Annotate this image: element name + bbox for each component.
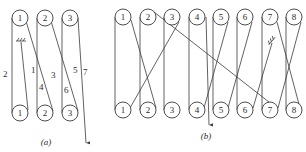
roller-threading-figure: 1 2 3 1 2 3 1 2 3 4 5 6 7 (a)	[0, 0, 306, 152]
bottom-roller-6: 6	[237, 102, 253, 118]
bottom-roller-3: 3	[164, 102, 180, 118]
bottom-roller-5: 5	[213, 102, 229, 118]
top-roller-2: 2	[37, 10, 53, 26]
diagram-b: 1 2 3 4 5 6 7 8 1 2 3 4 5 6 7 8 (b)	[115, 9, 302, 141]
segment-label-6: 6	[64, 85, 69, 95]
svg-text:4: 4	[195, 105, 200, 115]
segment-label-7: 7	[83, 67, 88, 77]
strand-anchor-bottom6	[253, 43, 272, 108]
bottom-roller-2: 2	[37, 105, 53, 121]
segment-label-2: 2	[3, 69, 8, 79]
top-roller-3: 3	[62, 10, 78, 26]
svg-text:1: 1	[121, 105, 126, 115]
svg-text:8: 8	[292, 105, 297, 115]
svg-text:7: 7	[268, 12, 273, 22]
svg-text:2: 2	[43, 108, 48, 118]
svg-text:1: 1	[121, 12, 126, 22]
top-roller-7: 7	[262, 9, 278, 25]
segment-label-4: 4	[39, 82, 44, 92]
strand-1	[21, 42, 28, 110]
segment-label-3: 3	[51, 70, 56, 80]
top-roller-2: 2	[140, 9, 156, 25]
svg-text:5: 5	[219, 12, 224, 22]
bottom-roller-3: 3	[62, 105, 78, 121]
top-roller-1: 1	[12, 10, 28, 26]
strand-top7-bottom8	[277, 22, 300, 108]
strand-7-exit-arrow	[78, 18, 86, 143]
svg-text:1: 1	[18, 108, 23, 118]
segment-label-1: 1	[31, 65, 36, 75]
caption-a: (a)	[41, 137, 52, 147]
top-roller-1: 1	[115, 9, 131, 25]
caption-b: (b)	[201, 131, 212, 141]
top-roller-6: 6	[237, 9, 253, 25]
bottom-roller-8: 8	[286, 102, 302, 118]
bottom-roller-1: 1	[115, 102, 131, 118]
bottom-roller-1: 1	[12, 105, 28, 121]
top-roller-3: 3	[164, 9, 180, 25]
svg-text:6: 6	[243, 105, 248, 115]
segment-label-5: 5	[73, 65, 78, 75]
svg-text:3: 3	[68, 13, 73, 23]
bottom-roller-4: 4	[189, 102, 205, 118]
top-roller-8: 8	[286, 9, 302, 25]
svg-text:2: 2	[146, 105, 151, 115]
strand-top3-bottom1	[130, 22, 179, 108]
diagram-a: 1 2 3 1 2 3 1 2 3 4 5 6 7 (a)	[3, 10, 88, 147]
svg-text:2: 2	[43, 13, 48, 23]
anchor-icon	[16, 38, 26, 41]
top-roller-5: 5	[213, 9, 229, 25]
exit-arrow	[206, 17, 209, 125]
svg-text:8: 8	[292, 12, 297, 22]
strand-top8-bottom7	[278, 22, 301, 108]
svg-text:6: 6	[243, 12, 248, 22]
svg-text:2: 2	[146, 12, 151, 22]
strand-top2-bottom7	[154, 12, 274, 106]
top-roller-4: 4	[189, 9, 205, 25]
svg-text:7: 7	[268, 105, 273, 115]
svg-text:3: 3	[170, 105, 175, 115]
anchor-icon	[266, 35, 275, 45]
svg-text:3: 3	[170, 12, 175, 22]
strand-top1-bottom2	[131, 20, 156, 108]
svg-text:3: 3	[68, 108, 73, 118]
bottom-roller-2: 2	[140, 102, 156, 118]
svg-text:4: 4	[195, 12, 200, 22]
svg-text:5: 5	[219, 105, 224, 115]
strand-top6-bottom5	[228, 22, 252, 108]
svg-text:1: 1	[18, 13, 23, 23]
bottom-roller-7: 7	[262, 102, 278, 118]
